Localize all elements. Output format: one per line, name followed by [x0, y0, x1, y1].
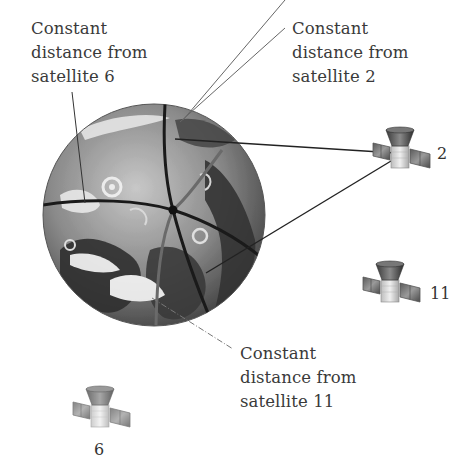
label-satellite-11-arc: Constant distance from satellite 11 [240, 342, 357, 414]
label-line: Constant [292, 17, 409, 41]
gps-diagram: Constant distance from satellite 6 Const… [0, 0, 469, 473]
label-line: Constant [240, 342, 357, 366]
earth-globe-icon [43, 104, 265, 326]
label-line: satellite 11 [240, 390, 357, 414]
satellite-11-label: 11 [430, 284, 450, 303]
receiver-position-dot [169, 206, 178, 215]
satellite-11-icon [363, 261, 420, 302]
leader-satellite-2 [180, 28, 285, 122]
label-satellite-2-arc: Constant distance from satellite 2 [292, 17, 409, 89]
satellite-6-label: 6 [94, 440, 104, 459]
label-line: distance from [292, 41, 409, 65]
label-line: satellite 6 [31, 65, 148, 89]
leader-satellite-2 [183, 0, 285, 120]
label-line: distance from [31, 41, 148, 65]
satellite-2-icon [373, 127, 430, 168]
satellite-6-icon [73, 386, 130, 427]
label-line: distance from [240, 366, 357, 390]
label-line: Constant [31, 17, 148, 41]
label-line: satellite 2 [292, 65, 409, 89]
satellite-2-label: 2 [437, 144, 447, 163]
label-satellite-6-arc: Constant distance from satellite 6 [31, 17, 148, 89]
